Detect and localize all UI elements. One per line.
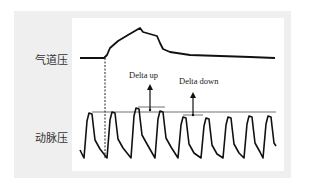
delta-up-arrowhead-icon (147, 84, 153, 90)
airway-pressure-trace (80, 28, 275, 58)
delta-down-arrowhead-icon (190, 92, 196, 98)
delta-up-anchor-dot (149, 109, 151, 111)
delta-down-anchor-dot (192, 114, 194, 116)
arterial-pressure-trace (80, 108, 276, 158)
pressure-waveform-plot (0, 0, 309, 192)
